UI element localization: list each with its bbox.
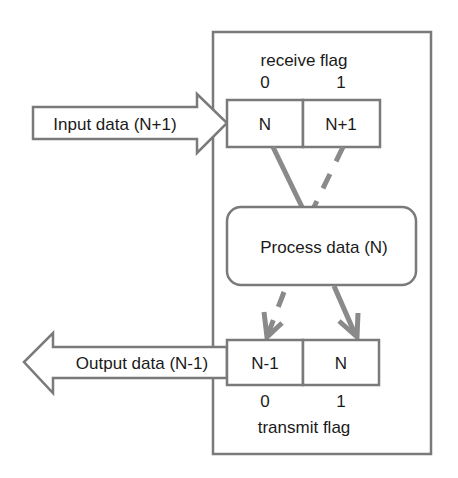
- receive-slot-0-value: N: [259, 115, 271, 134]
- output-arrow: Output data (N-1): [24, 333, 227, 393]
- double-buffer-diagram: Input data (N+1) receive flag 0 1 N N+1 …: [0, 0, 458, 478]
- transmit-flag-title: transmit flag: [258, 418, 351, 437]
- transmit-flag-0: 0: [260, 392, 269, 411]
- receive-flag-title: receive flag: [261, 51, 348, 70]
- receive-flag-1: 1: [336, 73, 345, 92]
- transmit-slot-0-value: N-1: [251, 354, 278, 373]
- input-arrow-label: Input data (N+1): [53, 115, 176, 134]
- transmit-flag-1: 1: [336, 392, 345, 411]
- output-arrow-label: Output data (N-1): [76, 354, 208, 373]
- receive-flag-0: 0: [260, 73, 269, 92]
- process-block: Process data (N): [227, 207, 416, 285]
- input-arrow: Input data (N+1): [33, 94, 227, 153]
- process-label: Process data (N): [260, 238, 388, 257]
- transmit-slot-1-value: N: [335, 354, 347, 373]
- receive-slot-1-value: N+1: [325, 115, 357, 134]
